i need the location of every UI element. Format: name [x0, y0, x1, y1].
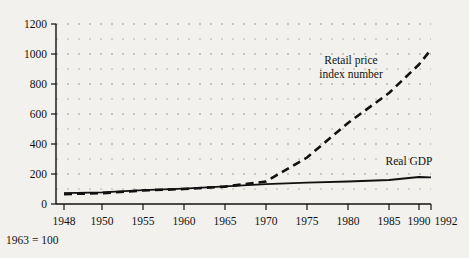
annotation-retail-price-line2: index number — [319, 68, 383, 80]
annotation-real-gdp: Real GDP — [386, 155, 433, 167]
chart-container: 1200 1000 800 600 400 200 0 1948 1950 19… — [0, 0, 469, 258]
ytick-label-1000: 1000 — [24, 48, 47, 60]
series-line-real-gdp — [64, 177, 431, 193]
ytick-label-400: 400 — [30, 138, 48, 150]
xtick-label-1985: 1985 — [378, 215, 401, 227]
xtick-label-1980: 1980 — [337, 215, 360, 227]
ytick-label-0: 0 — [41, 198, 47, 210]
y-tick-marks — [51, 24, 56, 204]
xtick-label-1975: 1975 — [296, 215, 319, 227]
x-tick-marks — [64, 204, 431, 210]
ytick-label-800: 800 — [30, 78, 48, 90]
line-chart: 1200 1000 800 600 400 200 0 1948 1950 19… — [0, 0, 469, 258]
xtick-label-1955: 1955 — [132, 215, 155, 227]
xtick-label-1950: 1950 — [91, 215, 114, 227]
xtick-label-1990: 1990 — [408, 215, 431, 227]
xtick-label-1960: 1960 — [173, 215, 196, 227]
xtick-label-1992: 1992 — [435, 215, 458, 227]
ytick-label-600: 600 — [30, 108, 48, 120]
ytick-label-1200: 1200 — [24, 18, 47, 30]
xtick-label-1970: 1970 — [255, 215, 278, 227]
xtick-label-1948: 1948 — [53, 215, 76, 227]
footnote-base-year: 1963 = 100 — [6, 234, 59, 246]
gridlines — [56, 24, 431, 189]
ytick-label-200: 200 — [30, 168, 48, 180]
annotation-retail-price-line1: Retail price — [324, 54, 377, 67]
xtick-label-1965: 1965 — [214, 215, 237, 227]
